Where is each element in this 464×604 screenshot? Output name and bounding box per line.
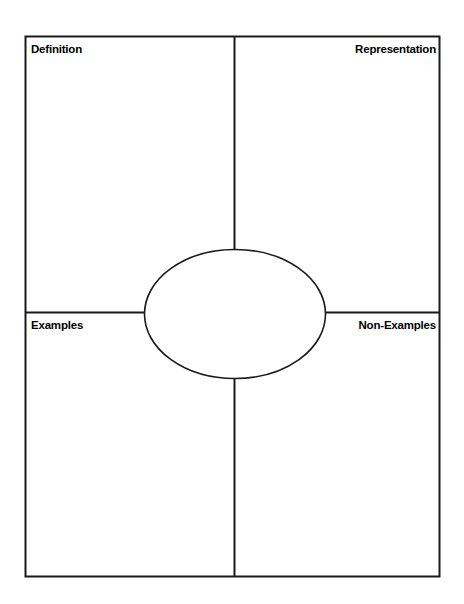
quadrant-label-representation: Representation — [355, 43, 436, 56]
organizer-diagram — [0, 0, 464, 604]
quadrant-label-non-examples: Non-Examples — [359, 319, 436, 332]
frayer-model-organizer: Definition Representation Examples Non-E… — [0, 0, 464, 604]
quadrant-label-examples: Examples — [31, 319, 83, 332]
quadrant-label-definition: Definition — [31, 43, 82, 56]
center-concept-ellipse[interactable] — [145, 250, 326, 379]
